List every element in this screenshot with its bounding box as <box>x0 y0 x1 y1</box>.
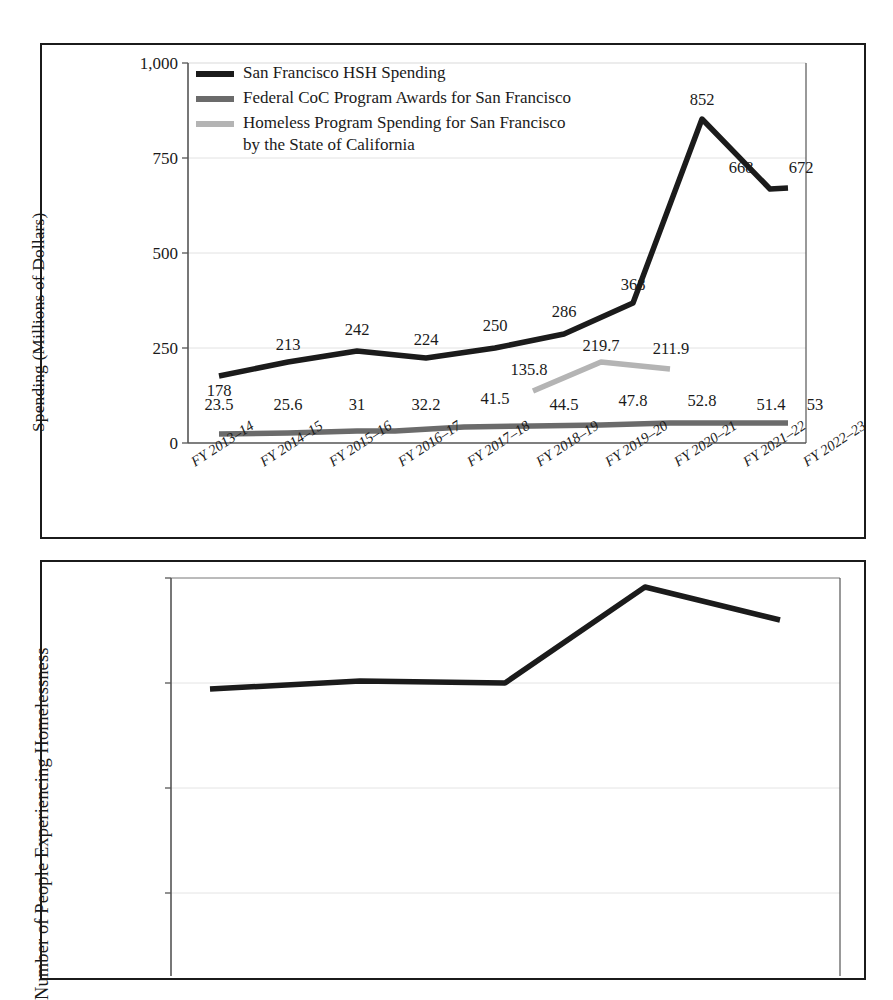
federal-value-2022: 53 <box>795 395 835 415</box>
hsh-value-2018: 286 <box>534 302 594 322</box>
hsh-value-2020: 852 <box>672 90 732 110</box>
federal-value-2018: 44.5 <box>534 395 594 415</box>
hsh-value-2021: 668 <box>711 158 771 178</box>
state-value-2019: 219.7 <box>566 336 636 356</box>
hsh-value-2014: 213 <box>258 335 318 355</box>
federal-value-2021: 51.4 <box>741 395 801 415</box>
legend-label-hsh: San Francisco HSH Spending <box>243 62 446 84</box>
legend-label-state: Homeless Program Spending for San Franci… <box>243 112 573 156</box>
federal-value-2017: 41.5 <box>465 389 525 409</box>
legend-swatch-hsh-icon <box>196 71 234 77</box>
state-value-2020: 211.9 <box>636 339 706 359</box>
homelessness-line <box>210 587 780 689</box>
federal-value-2016: 32.2 <box>396 395 456 415</box>
legend-swatch-state-icon <box>196 121 234 127</box>
federal-value-2019: 47.8 <box>603 391 663 411</box>
legend-item-state: Homeless Program Spending for San Franci… <box>196 112 626 156</box>
legend-item-hsh: San Francisco HSH Spending <box>196 62 626 84</box>
hsh-value-2022: 672 <box>771 158 831 178</box>
state-value-2018: 135.8 <box>494 360 564 380</box>
federal-value-2020: 52.8 <box>672 391 732 411</box>
legend-label-federal: Federal CoC Program Awards for San Franc… <box>243 87 571 109</box>
hsh-value-2015: 242 <box>327 320 387 340</box>
federal-value-2015: 31 <box>327 395 387 415</box>
federal-value-2013: 23.5 <box>189 395 249 415</box>
legend-item-federal: Federal CoC Program Awards for San Franc… <box>196 87 626 109</box>
hsh-value-2016: 224 <box>396 330 456 350</box>
spending-legend: San Francisco HSH Spending Federal CoC P… <box>196 62 626 159</box>
legend-swatch-federal-icon <box>196 96 234 102</box>
hsh-value-2017: 250 <box>465 316 525 336</box>
homelessness-plot-area <box>0 548 893 976</box>
hsh-value-2019: 368 <box>603 275 663 295</box>
federal-value-2014: 25.6 <box>258 395 318 415</box>
